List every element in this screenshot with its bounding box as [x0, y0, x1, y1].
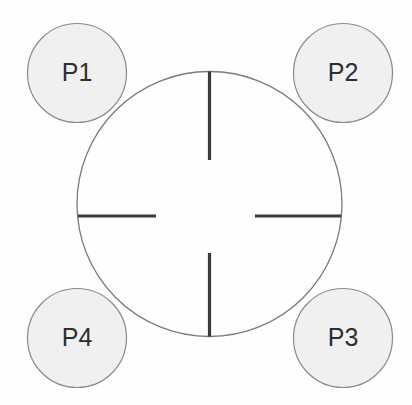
node-p2[interactable]: P2 — [294, 24, 393, 123]
node-p3-label: P3 — [328, 323, 359, 351]
node-p1[interactable]: P1 — [28, 24, 127, 123]
node-p2-label: P2 — [328, 58, 359, 86]
node-p4-label: P4 — [62, 323, 93, 351]
diagram-svg: P1 P2 P3 P4 — [0, 0, 412, 405]
node-p1-label: P1 — [62, 58, 93, 86]
node-p3[interactable]: P3 — [294, 289, 393, 388]
node-p4[interactable]: P4 — [28, 289, 127, 388]
diagram-canvas: P1 P2 P3 P4 — [0, 0, 412, 405]
